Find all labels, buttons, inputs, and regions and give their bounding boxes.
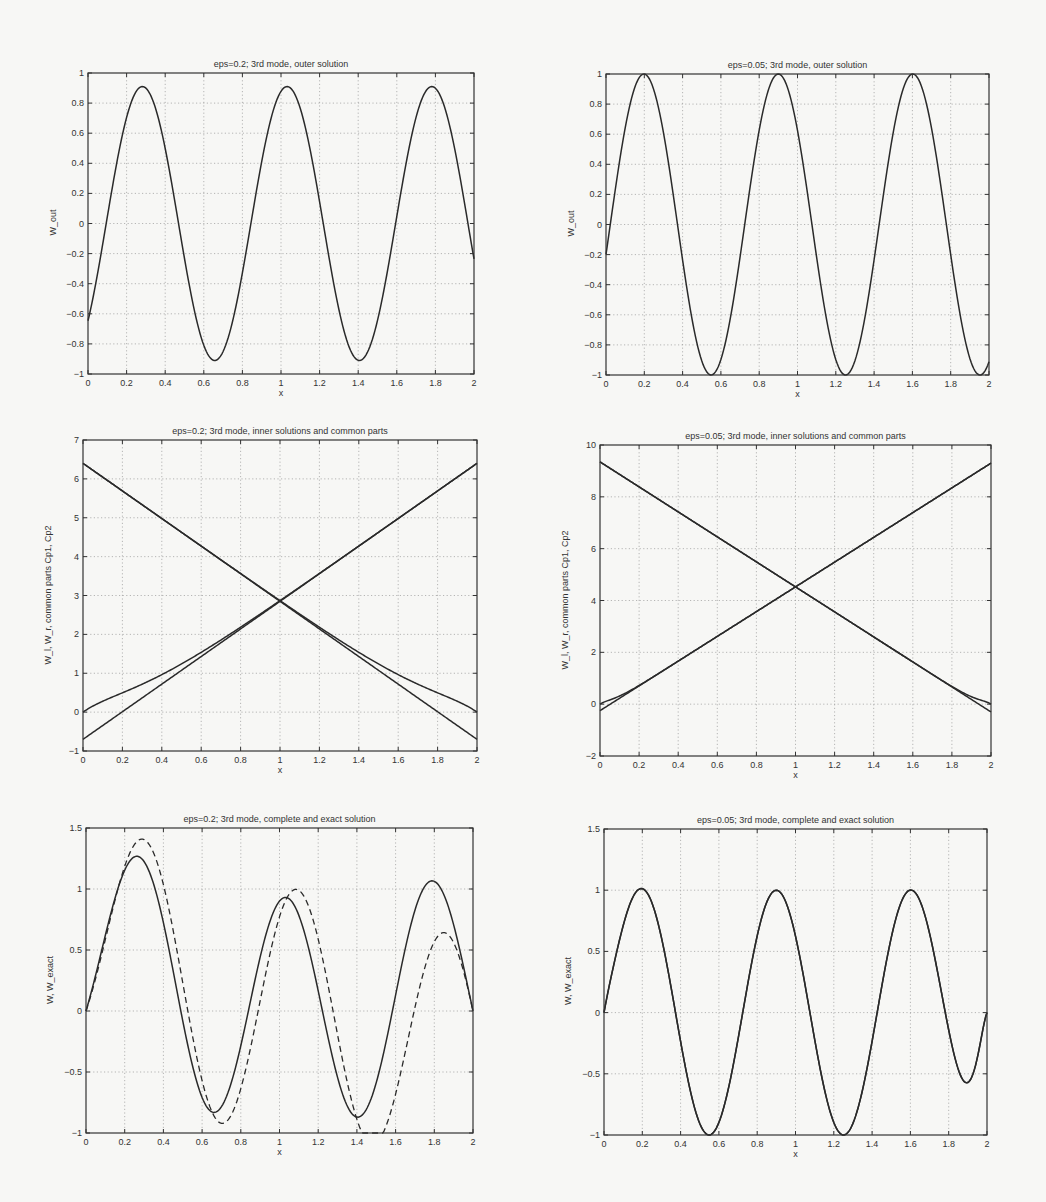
x-tick-label: 0.2 — [116, 755, 129, 765]
x-axis-label: x — [277, 1147, 282, 1157]
x-tick-label: 0.8 — [234, 755, 247, 765]
y-tick-label: −0.4 — [66, 279, 84, 289]
plot-area: 00.20.40.60.811.21.41.61.82−1−0.8−0.6−0.… — [88, 73, 474, 374]
y-tick-label: 8 — [591, 492, 596, 502]
y-tick-label: −1 — [72, 1128, 82, 1138]
x-tick-label: 1.2 — [828, 760, 841, 770]
series-w-r — [600, 462, 991, 704]
x-tick-label: 0.4 — [676, 379, 689, 389]
y-tick-label: 1 — [77, 884, 82, 894]
x-tick-label: 1.8 — [429, 378, 442, 388]
x-tick-label: 1.8 — [944, 379, 957, 389]
y-tick-label: −1 — [69, 746, 79, 756]
x-tick-label: 0 — [80, 755, 85, 765]
x-tick-label: 0.2 — [118, 1137, 131, 1147]
y-tick-label: 1 — [74, 668, 79, 678]
subplot-title: eps=0.2; 3rd mode, complete and exact so… — [184, 814, 376, 824]
y-tick-label: −1 — [592, 370, 602, 380]
x-tick-label: 0.2 — [636, 1139, 649, 1149]
x-tick-label: 0 — [83, 1137, 88, 1147]
y-tick-label: 4 — [74, 552, 79, 562]
x-tick-label: 0.4 — [674, 1139, 687, 1149]
subplot-title: eps=0.2; 3rd mode, inner solutions and c… — [172, 426, 387, 436]
grid-lines — [86, 828, 473, 1133]
x-tick-label: 1.2 — [313, 755, 326, 765]
x-tick-label: 1.4 — [866, 1139, 879, 1149]
x-tick-label: 0 — [85, 378, 90, 388]
x-tick-label: 1.8 — [946, 760, 959, 770]
y-axis-label: W, W_exact — [45, 955, 55, 1005]
y-tick-label: 5 — [74, 513, 79, 523]
y-tick-label: 0 — [79, 219, 84, 229]
x-tick-label: 0.8 — [751, 1139, 764, 1149]
tick-marks: 00.20.40.60.811.21.41.61.82−1−0.500.511.… — [64, 823, 475, 1147]
x-tick-label: 1.2 — [312, 1137, 325, 1147]
plot-area: 00.20.40.60.811.21.41.61.82−101234567 — [83, 440, 477, 751]
y-tick-label: 0 — [74, 707, 79, 717]
y-axis-label: W, W_exact — [563, 956, 573, 1006]
y-tick-label: 3 — [74, 591, 79, 601]
x-tick-label: 1.6 — [392, 755, 405, 765]
y-tick-label: 0 — [595, 1008, 600, 1018]
y-tick-label: 1 — [595, 885, 600, 895]
y-tick-label: −2 — [586, 751, 596, 761]
y-tick-label: −0.2 — [66, 249, 84, 259]
x-tick-label: 0 — [601, 1139, 606, 1149]
x-tick-label: 0.8 — [235, 1137, 248, 1147]
subplot-p3: eps=0.2; 3rd mode, inner solutions and c… — [83, 440, 477, 751]
x-tick-label: 1.4 — [867, 760, 880, 770]
subplot-p1: eps=0.2; 3rd mode, outer solutionxW_out0… — [88, 73, 474, 374]
x-axis-label: x — [793, 770, 798, 780]
x-tick-label: 0.2 — [638, 379, 651, 389]
x-tick-label: 1.2 — [828, 1139, 841, 1149]
x-tick-label: 0.6 — [711, 760, 724, 770]
x-tick-label: 1 — [793, 1139, 798, 1149]
y-tick-label: −0.5 — [582, 1069, 600, 1079]
x-tick-label: 2 — [986, 379, 991, 389]
y-tick-label: 1.5 — [587, 824, 600, 834]
y-tick-label: −0.6 — [584, 310, 602, 320]
tick-marks: 00.20.40.60.811.21.41.61.82−1−0.8−0.6−0.… — [584, 69, 991, 389]
y-tick-label: −0.5 — [64, 1067, 82, 1077]
y-tick-label: 0.5 — [69, 945, 82, 955]
y-tick-label: 0 — [591, 699, 596, 709]
x-tick-label: 0.6 — [715, 379, 728, 389]
x-tick-label: 1.6 — [389, 1137, 402, 1147]
x-tick-label: 1.4 — [352, 378, 365, 388]
x-tick-label: 0.2 — [120, 378, 133, 388]
y-tick-label: −0.2 — [584, 250, 602, 260]
x-tick-label: 1.6 — [907, 760, 920, 770]
y-tick-label: −0.8 — [66, 339, 84, 349]
x-tick-label: 0.4 — [159, 378, 172, 388]
x-axis-label: x — [793, 1149, 798, 1159]
x-tick-label: 1.4 — [353, 755, 366, 765]
grid-lines — [604, 829, 987, 1135]
x-tick-label: 1.8 — [942, 1139, 955, 1149]
x-tick-label: 1.2 — [830, 379, 843, 389]
y-tick-label: 0.6 — [71, 128, 84, 138]
x-tick-label: 0.4 — [157, 1137, 170, 1147]
x-tick-label: 2 — [474, 755, 479, 765]
plot-area: 00.20.40.60.811.21.41.61.82−1−0.500.511.… — [604, 829, 987, 1135]
y-tick-label: 0.8 — [71, 98, 84, 108]
x-tick-label: 0.4 — [672, 760, 685, 770]
y-tick-label: 4 — [591, 596, 596, 606]
x-tick-label: 2 — [988, 760, 993, 770]
y-tick-label: 0 — [77, 1006, 82, 1016]
x-tick-label: 0 — [597, 760, 602, 770]
y-tick-label: 1 — [79, 68, 84, 78]
y-tick-label: 0.4 — [589, 159, 602, 169]
y-tick-label: 6 — [74, 474, 79, 484]
y-tick-label: −1 — [590, 1130, 600, 1140]
subplot-p5: eps=0.2; 3rd mode, complete and exact so… — [86, 828, 473, 1133]
data-series — [604, 889, 987, 1135]
series-w — [604, 889, 987, 1135]
x-tick-label: 0.6 — [713, 1139, 726, 1149]
y-tick-label: 2 — [591, 647, 596, 657]
x-tick-label: 1.8 — [428, 1137, 441, 1147]
y-tick-label: 0.6 — [589, 129, 602, 139]
x-tick-label: 2 — [470, 1137, 475, 1147]
y-tick-label: 0.2 — [589, 189, 602, 199]
y-tick-label: −0.4 — [584, 280, 602, 290]
y-tick-label: −0.8 — [584, 340, 602, 350]
